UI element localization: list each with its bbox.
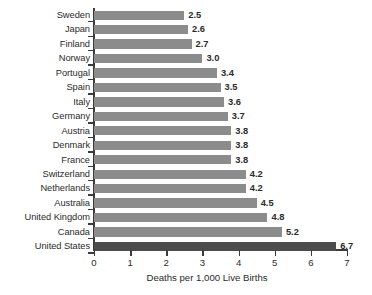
value-label-united-kingdom: 4.8	[271, 210, 284, 224]
bar-row: United States6.7	[0, 239, 372, 253]
bar-row: Denmark3.8	[0, 138, 372, 152]
x-axis-tick	[166, 250, 167, 256]
x-axis-tick	[202, 250, 203, 256]
bar-row: Sweden2.5	[0, 8, 372, 22]
bar-finland	[94, 39, 192, 48]
x-axis-tick	[347, 250, 348, 256]
y-axis-tick	[88, 252, 94, 253]
x-axis-title: Deaths per 1,000 Live Births	[0, 272, 372, 283]
category-label-australia: Australia	[54, 196, 90, 210]
x-axis-tick-label: 0	[79, 257, 109, 268]
value-label-finland: 2.7	[196, 37, 209, 51]
bar-row: Switzerland4.2	[0, 167, 372, 181]
bar-australia	[94, 198, 257, 207]
category-label-spain: Spain	[66, 80, 90, 94]
bar-rows-container: Sweden2.5Japan2.6Finland2.7Norway3.0Port…	[0, 0, 372, 250]
bar-row: Finland2.7	[0, 37, 372, 51]
bar-row: Portugal3.4	[0, 66, 372, 80]
category-label-switzerland: Switzerland	[42, 167, 90, 181]
x-axis-tick	[275, 250, 276, 256]
category-label-norway: Norway	[59, 51, 90, 65]
bar-portugal	[94, 68, 217, 77]
category-label-sweden: Sweden	[57, 8, 90, 22]
bar-denmark	[94, 141, 231, 150]
value-label-france: 3.8	[235, 153, 248, 167]
category-label-austria: Austria	[61, 124, 90, 138]
bar-norway	[94, 54, 202, 63]
x-axis-tick	[311, 250, 312, 256]
bar-row: Norway3.0	[0, 51, 372, 65]
value-label-canada: 5.2	[286, 225, 299, 239]
value-label-italy: 3.6	[228, 95, 241, 109]
x-axis-tick-label: 3	[187, 257, 217, 268]
bar-germany	[94, 112, 228, 121]
bar-united-kingdom	[94, 213, 267, 222]
value-label-spain: 3.5	[225, 80, 238, 94]
bar-italy	[94, 97, 224, 106]
bar-netherlands	[94, 184, 246, 193]
value-label-norway: 3.0	[206, 51, 219, 65]
bar-switzerland	[94, 170, 246, 179]
category-label-finland: Finland	[60, 37, 90, 51]
category-label-japan: Japan	[65, 22, 90, 36]
bar-canada	[94, 227, 282, 236]
bar-row: United Kingdom4.8	[0, 210, 372, 224]
category-label-portugal: Portugal	[56, 66, 90, 80]
bar-row: Germany3.7	[0, 109, 372, 123]
x-axis-tick	[130, 250, 131, 256]
value-label-australia: 4.5	[261, 196, 274, 210]
value-label-switzerland: 4.2	[250, 167, 263, 181]
bar-sweden	[94, 11, 184, 20]
x-axis-tick-label: 2	[151, 257, 181, 268]
value-label-portugal: 3.4	[221, 66, 234, 80]
bar-row: Australia4.5	[0, 196, 372, 210]
bar-row: Spain3.5	[0, 80, 372, 94]
x-axis-tick-label: 5	[260, 257, 290, 268]
bar-row: Italy3.6	[0, 95, 372, 109]
value-label-austria: 3.8	[235, 124, 248, 138]
category-label-germany: Germany	[52, 109, 90, 123]
x-axis-tick-label: 4	[224, 257, 254, 268]
bar-row: Netherlands4.2	[0, 181, 372, 195]
bar-austria	[94, 126, 231, 135]
bar-chart: Sweden2.5Japan2.6Finland2.7Norway3.0Port…	[0, 0, 372, 295]
bar-row: France3.8	[0, 153, 372, 167]
bar-spain	[94, 83, 221, 92]
bar-japan	[94, 25, 188, 34]
bar-row: Japan2.6	[0, 22, 372, 36]
x-axis-tick	[239, 250, 240, 256]
value-label-denmark: 3.8	[235, 138, 248, 152]
category-label-denmark: Denmark	[53, 138, 90, 152]
x-axis-tick-label: 6	[296, 257, 326, 268]
value-label-netherlands: 4.2	[250, 181, 263, 195]
bar-row: Austria3.8	[0, 124, 372, 138]
x-axis-tick-label: 1	[115, 257, 145, 268]
x-axis-tick-label: 7	[332, 257, 362, 268]
category-label-netherlands: Netherlands	[40, 181, 90, 195]
category-label-united-kingdom: United Kingdom	[25, 210, 90, 224]
bar-france	[94, 155, 231, 164]
category-label-united-states: United States	[35, 239, 90, 253]
x-axis-tick	[94, 250, 95, 256]
category-label-canada: Canada	[58, 225, 90, 239]
category-label-france: France	[61, 153, 90, 167]
bar-row: Canada5.2	[0, 225, 372, 239]
value-label-germany: 3.7	[232, 109, 245, 123]
value-label-sweden: 2.5	[188, 8, 201, 22]
value-label-japan: 2.6	[192, 22, 205, 36]
